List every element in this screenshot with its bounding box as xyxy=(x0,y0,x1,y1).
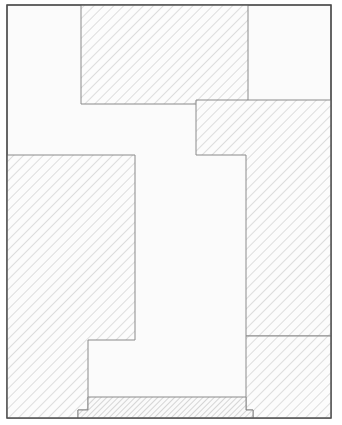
region-top-hatched-block xyxy=(81,5,248,104)
region-right-lower-block xyxy=(246,336,331,418)
region-pedestal-base-band xyxy=(78,397,253,418)
drawing-canvas: Hatched Sectional Outline T-shaped unhat… xyxy=(0,0,342,425)
technical-section-drawing xyxy=(0,0,342,425)
